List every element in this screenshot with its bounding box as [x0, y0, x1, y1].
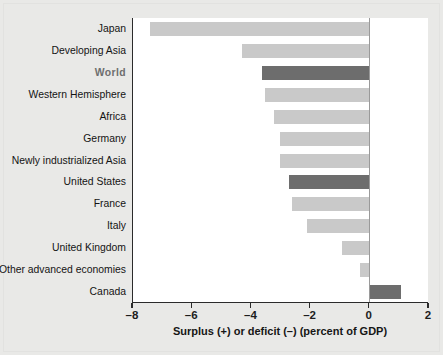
- x-tick-2: [250, 303, 251, 308]
- x-tick-0: [131, 303, 132, 308]
- category-label-africa: Africa: [99, 112, 126, 122]
- x-axis-title: Surplus (+) or deficit (–) (percent of G…: [132, 325, 428, 337]
- y-axis-category-labels: JapanDeveloping AsiaWorldWestern Hemisph…: [0, 18, 126, 303]
- x-tick-label-5: 2: [425, 309, 431, 321]
- x-tick-1: [191, 303, 192, 308]
- category-label-united-kingdom: United Kingdom: [52, 243, 126, 253]
- x-tick-label-2: –4: [244, 309, 257, 321]
- y-axis-line: [132, 18, 133, 303]
- category-label-developing-asia: Developing Asia: [51, 46, 126, 56]
- x-tick-5: [427, 303, 428, 308]
- x-tick-label-1: –6: [185, 309, 198, 321]
- x-tick-label-0: –8: [126, 309, 139, 321]
- zero-reference-line: [369, 18, 370, 303]
- category-label-newly-industrialized-asia: Newly industrialized Asia: [12, 156, 126, 166]
- x-axis-line: [132, 302, 428, 303]
- category-label-canada: Canada: [90, 287, 126, 297]
- category-label-italy: Italy: [107, 221, 126, 231]
- x-tick-label-3: –2: [303, 309, 316, 321]
- plot-area: [132, 18, 428, 303]
- x-tick-4: [368, 303, 369, 308]
- category-label-world: World: [95, 68, 126, 78]
- x-tick-label-4: 0: [366, 309, 372, 321]
- category-label-united-states: United States: [64, 177, 126, 187]
- category-label-other-advanced-economies: Other advanced economies: [0, 265, 126, 275]
- x-tick-3: [309, 303, 310, 308]
- category-label-france: France: [94, 199, 126, 209]
- chart-figure: JapanDeveloping AsiaWorldWestern Hemisph…: [0, 0, 443, 355]
- category-label-germany: Germany: [83, 134, 126, 144]
- category-label-japan: Japan: [98, 24, 126, 34]
- category-label-western-hemisphere: Western Hemisphere: [29, 90, 126, 100]
